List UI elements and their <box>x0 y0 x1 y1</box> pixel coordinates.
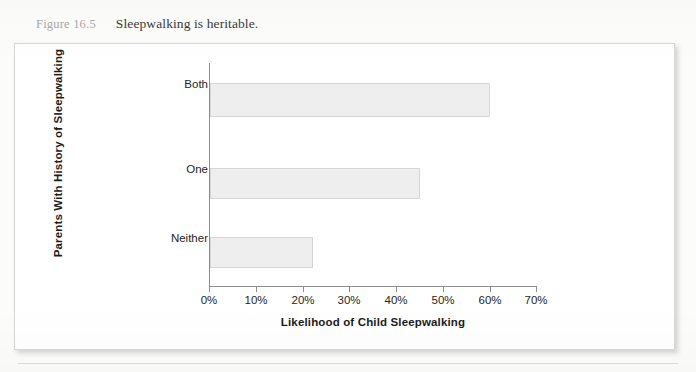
figure-page: Figure 16.5 Sleepwalking is heritable. P… <box>0 0 696 372</box>
x-tick-10 <box>256 287 257 292</box>
category-label-one: One <box>118 163 208 175</box>
x-tick-label-0: 0% <box>184 294 234 306</box>
x-tick-label-10: 10% <box>231 294 281 306</box>
bar-chart: Parents With History of Sleepwalking Bot… <box>15 44 676 351</box>
x-tick-20 <box>303 287 304 292</box>
figure-panel: Parents With History of Sleepwalking Bot… <box>14 43 675 350</box>
page-bottom-rule <box>18 363 678 364</box>
x-tick-0 <box>209 287 210 292</box>
figure-title: Sleepwalking is heritable. <box>116 16 258 31</box>
x-axis-title: Likelihood of Child Sleepwalking <box>209 316 537 328</box>
x-axis-line <box>209 286 537 287</box>
category-label-neither: Neither <box>118 232 208 244</box>
bar-neither <box>210 237 313 268</box>
figure-caption: Figure 16.5 Sleepwalking is heritable. <box>36 14 636 34</box>
y-axis-title: Parents With History of Sleepwalking <box>52 33 64 273</box>
x-tick-label-50: 50% <box>418 294 468 306</box>
bar-both <box>210 83 490 117</box>
x-tick-label-30: 30% <box>324 294 374 306</box>
x-tick-label-60: 60% <box>465 294 515 306</box>
x-tick-50 <box>443 287 444 292</box>
x-tick-60 <box>490 287 491 292</box>
figure-number: Figure 16.5 <box>36 17 96 31</box>
category-label-both: Both <box>118 78 208 90</box>
x-tick-label-20: 20% <box>278 294 328 306</box>
x-tick-40 <box>396 287 397 292</box>
x-tick-label-70: 70% <box>511 294 561 306</box>
x-tick-30 <box>349 287 350 292</box>
x-tick-label-40: 40% <box>371 294 421 306</box>
x-tick-70 <box>536 287 537 292</box>
bar-one <box>210 168 420 199</box>
